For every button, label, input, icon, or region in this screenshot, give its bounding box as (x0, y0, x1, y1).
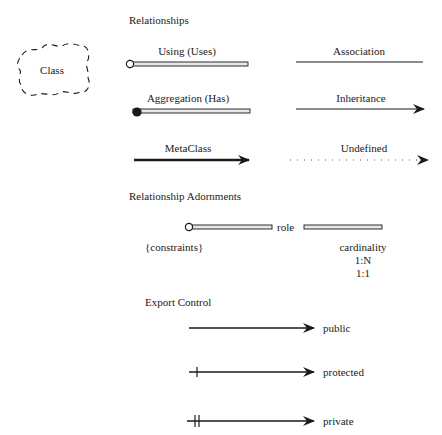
relationships-heading: Relationships (129, 14, 189, 26)
metaclass-label: MetaClass (165, 142, 211, 154)
class-label: Class (40, 64, 64, 76)
cardinality-label: cardinality (339, 241, 386, 253)
aggregation-relationship-icon (132, 107, 250, 116)
constraints-label: {constraints} (145, 241, 203, 253)
public-label: public (323, 322, 351, 334)
export-control-heading: Export Control (145, 296, 211, 308)
protected-label: protected (323, 366, 364, 378)
adornments-heading: Relationship Adornments (129, 190, 241, 202)
cardinality-value: 1:1 (356, 267, 370, 279)
aggregation-label: Aggregation (Has) (147, 92, 229, 104)
inheritance-label: Inheritance (336, 92, 385, 104)
using-label: Using (Uses) (158, 45, 216, 57)
undefined-label: Undefined (341, 142, 387, 154)
using-relationship-icon (126, 60, 248, 67)
private-export-icon (187, 415, 314, 427)
protected-export-icon (189, 367, 314, 377)
notation-diagram (0, 0, 442, 435)
association-label: Association (333, 45, 385, 57)
private-label: private (323, 415, 354, 427)
role-label: role (277, 221, 294, 233)
cardinality-value: 1:N (355, 254, 372, 266)
